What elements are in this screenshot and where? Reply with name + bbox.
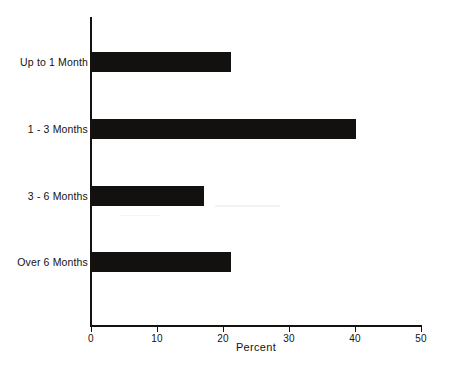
bar — [92, 186, 204, 206]
scan-artifact — [215, 205, 280, 207]
category-label: Over 6 Months — [17, 256, 88, 268]
x-tick-mark — [91, 327, 92, 332]
bar — [92, 52, 231, 72]
x-tick-mark — [157, 327, 158, 332]
bar-chart-figure: 01020304050 Up to 1 Month1 - 3 Months3 -… — [0, 0, 466, 371]
x-axis-title: Percent — [90, 341, 422, 353]
scan-artifact — [120, 215, 160, 216]
x-tick-mark — [355, 327, 356, 332]
x-tick-mark — [421, 327, 422, 332]
category-label: 3 - 6 Months — [28, 190, 88, 202]
category-label: 1 - 3 Months — [28, 123, 88, 135]
bar — [92, 119, 356, 139]
category-label: Up to 1 Month — [20, 56, 88, 68]
plot-area: 01020304050 Up to 1 Month1 - 3 Months3 -… — [0, 0, 466, 371]
bar — [92, 252, 231, 272]
x-axis-line — [90, 325, 422, 327]
x-tick-mark — [223, 327, 224, 332]
x-tick-mark — [289, 327, 290, 332]
